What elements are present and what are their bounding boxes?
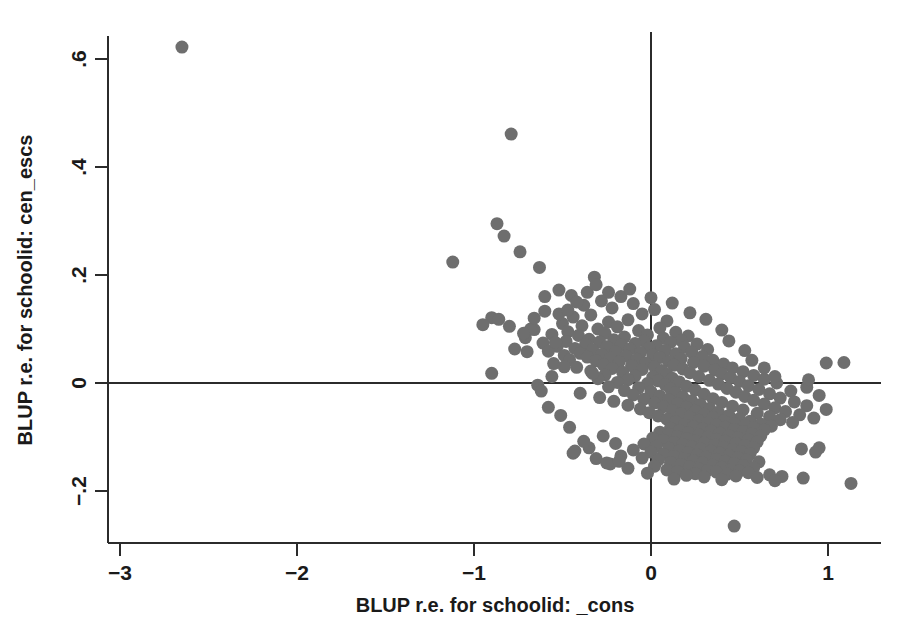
data-point (729, 469, 742, 482)
data-point (568, 445, 581, 458)
data-point (508, 342, 521, 355)
x-tick-label: 1 (822, 561, 834, 584)
y-tick-label: −.2 (67, 476, 90, 506)
data-point (715, 324, 728, 337)
data-point (699, 313, 712, 326)
y-tick-label: .2 (67, 266, 90, 284)
data-point (485, 367, 498, 380)
data-point (535, 385, 548, 398)
data-point (586, 367, 599, 380)
data-point (648, 303, 661, 316)
data-point (476, 318, 489, 331)
data-point (552, 284, 565, 297)
data-point (627, 297, 640, 310)
data-point (802, 373, 815, 386)
data-point (521, 345, 534, 358)
data-point (602, 286, 615, 299)
data-point (514, 245, 527, 258)
data-point (745, 354, 758, 367)
data-point (545, 370, 558, 383)
data-point (786, 416, 799, 429)
data-point (683, 306, 696, 319)
data-point (623, 283, 636, 296)
data-point (621, 313, 634, 326)
data-point (758, 361, 771, 374)
x-tick-label: −2 (285, 561, 309, 584)
data-point (584, 308, 597, 321)
data-point (549, 336, 562, 349)
scatter-plot-svg: −3−2−101 −.20.2.4.6 BLUP r.e. for school… (0, 0, 898, 639)
data-point (503, 320, 516, 333)
data-point (492, 313, 505, 326)
y-axis-title: BLUP r.e. for schoolid: cen_escs (14, 135, 36, 446)
data-point (795, 442, 808, 455)
data-point (768, 370, 781, 383)
data-point (554, 409, 567, 422)
data-point (600, 456, 613, 469)
data-point (797, 472, 810, 485)
data-point (175, 41, 188, 54)
data-point (577, 435, 590, 448)
data-point (593, 391, 606, 404)
data-point (715, 473, 728, 486)
data-point (574, 387, 587, 400)
data-point (788, 395, 801, 408)
x-tick-label: 0 (645, 561, 657, 584)
data-point (807, 412, 820, 425)
data-point (768, 474, 781, 487)
data-point (558, 360, 571, 373)
data-point (607, 395, 620, 408)
data-point (542, 401, 555, 414)
data-point (606, 301, 619, 314)
data-point (722, 334, 735, 347)
y-tick-label: .6 (67, 50, 90, 68)
y-tick-label: .4 (67, 158, 90, 176)
x-tick-label: −1 (462, 561, 486, 584)
data-point (820, 403, 833, 416)
data-point (563, 421, 576, 434)
data-point (668, 473, 681, 486)
data-point (570, 361, 583, 374)
data-point (590, 278, 603, 291)
data-point (538, 290, 551, 303)
data-point (505, 128, 518, 141)
data-point (609, 437, 622, 450)
data-point (498, 230, 511, 243)
data-point (491, 217, 504, 230)
x-tick-label: −3 (108, 561, 132, 584)
data-point (570, 296, 583, 309)
data-point (538, 305, 551, 318)
data-point (680, 469, 693, 482)
data-point (837, 356, 850, 369)
data-point (602, 380, 615, 393)
data-point (533, 261, 546, 274)
data-point (728, 520, 741, 533)
data-point (636, 452, 649, 465)
data-point (641, 467, 654, 480)
data-point (698, 470, 711, 483)
scatter-plot-figure: −3−2−101 −.20.2.4.6 BLUP r.e. for school… (0, 0, 898, 639)
data-point (528, 312, 541, 325)
y-tick-label: 0 (67, 377, 90, 389)
data-point (809, 446, 822, 459)
x-axis-title: BLUP r.e. for schoolid: _cons (356, 594, 635, 616)
data-point (517, 327, 530, 340)
data-point (645, 291, 658, 304)
data-point (446, 256, 459, 269)
data-point (845, 477, 858, 490)
data-point (636, 307, 649, 320)
data-point (597, 429, 610, 442)
data-point (820, 357, 833, 370)
data-point (813, 389, 826, 402)
data-point (621, 399, 634, 412)
data-point (666, 297, 679, 310)
data-point (751, 471, 764, 484)
data-point (613, 455, 626, 468)
